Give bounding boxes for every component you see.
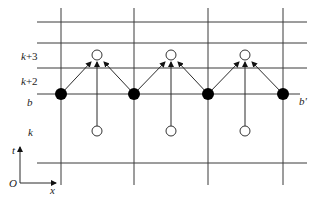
open-node xyxy=(166,126,176,136)
right-label-b-prime: b' xyxy=(299,95,308,107)
arrow-diagonal xyxy=(252,62,283,94)
row-label-b: b xyxy=(27,96,33,108)
open-node xyxy=(92,50,102,60)
open-node xyxy=(166,50,176,60)
arrow-diagonal xyxy=(61,62,91,94)
stencil-diagram: k+3 k+2 b k b' O t x xyxy=(0,0,315,202)
coordinate-axes: O t x xyxy=(9,144,56,196)
open-node xyxy=(240,50,250,60)
axis-label-t: t xyxy=(12,144,16,156)
arrow-diagonal xyxy=(104,62,134,94)
row-label-k-plus-3: k+3 xyxy=(21,50,38,62)
vertical-grid-lines xyxy=(61,8,283,185)
open-node xyxy=(240,126,250,136)
row-label-k: k xyxy=(28,126,34,138)
arrow-diagonal xyxy=(178,62,208,94)
axis-label-x: x xyxy=(49,184,55,196)
arrow-diagonal xyxy=(134,62,165,94)
open-node xyxy=(92,126,102,136)
arrow-diagonal xyxy=(208,62,239,94)
open-nodes-lower xyxy=(92,126,250,136)
horizontal-grid-lines xyxy=(37,22,307,163)
filled-node xyxy=(128,88,140,100)
row-label-k-plus-2: k+2 xyxy=(21,75,38,87)
open-nodes-upper xyxy=(92,50,250,60)
filled-node xyxy=(55,88,67,100)
filled-node xyxy=(277,88,289,100)
axis-label-origin: O xyxy=(9,177,17,189)
filled-node xyxy=(202,88,214,100)
diagonal-arrows xyxy=(61,62,283,94)
